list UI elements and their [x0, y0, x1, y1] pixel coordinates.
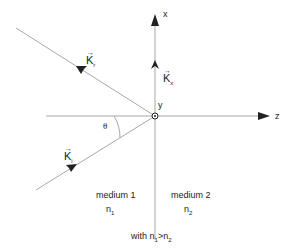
- angle-arc: [114, 116, 120, 138]
- medium-2-label: medium 2: [171, 191, 211, 200]
- medium-1-label: medium 1: [96, 191, 136, 200]
- x-axis-label: x: [163, 10, 168, 19]
- reflected-vector-label: →Kr: [86, 55, 95, 68]
- transmitted-vector-label: →Kx: [163, 73, 173, 86]
- incident-ray: [36, 116, 155, 190]
- diagram-canvas: [0, 0, 296, 252]
- condition-label: with n1>n2: [131, 232, 172, 243]
- medium-2-index: n2: [184, 205, 192, 216]
- angle-theta-label: θ: [103, 122, 107, 131]
- y-axis-label: y: [158, 101, 163, 110]
- z-axis-label: z: [275, 112, 280, 121]
- reflected-ray: [16, 28, 155, 116]
- z-axis-arrow-icon: [258, 112, 270, 120]
- x-axis-arrow-icon: [151, 14, 159, 26]
- incident-vector-label: →Ki: [64, 151, 73, 164]
- medium-1-index: n1: [106, 205, 114, 216]
